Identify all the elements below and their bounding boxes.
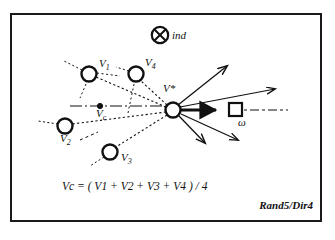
link-vstar-v2 [72,112,166,124]
stub-v2-v3 [80,132,98,140]
centroid-formula: Vc = ( V1 + V2 + V3 + V4 ) / 4 [62,180,207,192]
node-label-v1: V1 [99,58,110,72]
formula-term-4: V4 [173,180,186,192]
formula-plus-3: + [163,180,171,192]
node-v3 [103,145,118,160]
formula-term-3: V3 [147,180,160,192]
direction-arrows [178,66,275,143]
hub-to-node-links [72,77,167,147]
formula-close: ) / 4 [189,180,208,192]
centroid-label-sub: c [103,113,107,122]
formula-term-2: V2 [121,180,134,192]
ind-symbol-icon [152,27,168,43]
stub-v3 [90,157,104,166]
figure-caption: Rand5/Dir4 [259,199,313,211]
figure-canvas: ind V1 V4 V2 V3 Vc V* ω Vc = ( V1 + V2 +… [0,0,335,240]
formula-lhs-sub: c [69,180,74,192]
stub-v1-down [80,84,86,98]
node-label-v2-sub: 2 [67,138,71,147]
link-vstar-v1 [96,77,166,107]
stub-v2 [38,121,58,124]
node-label-v2: V2 [60,133,71,147]
node-label-v1-sub: 1 [106,63,110,72]
formula-lhs-base: V [62,180,69,192]
node-label-v3-sub: 3 [128,157,132,166]
centroid-label-base: V [96,107,103,119]
node-label-v4-sub: 4 [152,62,156,71]
stub-v1-right [97,73,120,76]
centroid-label: Vc [96,108,106,122]
node-vstar [166,103,181,118]
omega-label: ω [238,117,246,128]
formula-equals: = ( [77,180,91,192]
stub-v4 [116,67,129,71]
node-label-v1-base: V [99,57,106,69]
goal-square [229,103,242,116]
formula-plus-1: + [110,180,118,192]
node-label-v4: V4 [145,57,156,71]
node-v4 [129,67,144,82]
dir-down-steep-arrow [179,116,205,143]
hub-label: V* [163,83,175,94]
node-label-v2-base: V [60,132,67,144]
formula-plus-2: + [136,180,144,192]
stub-v1 [64,61,82,70]
node-label-v3: V3 [121,152,132,166]
ind-label: ind [172,30,186,41]
link-vstar-v3 [116,115,167,147]
node-label-v3-base: V [121,151,128,163]
formula-term-1: V1 [94,180,107,192]
node-v1 [82,67,97,82]
node-label-v4-base: V [145,56,152,68]
stub-v4-down [128,84,134,113]
